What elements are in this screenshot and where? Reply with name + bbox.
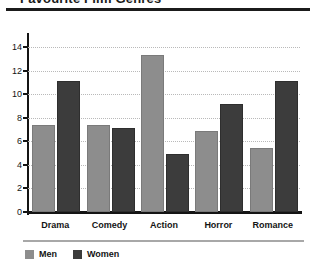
y-tick-label: 4 [17,160,22,170]
legend-label-men: Men [39,249,57,259]
y-tick-mark [23,187,28,189]
bar-group: Action [141,38,187,212]
x-axis-label-comedy: Comedy [87,220,133,230]
y-tick-label: 6 [17,136,22,146]
x-axis-label-romance: Romance [250,220,296,230]
bar-romance-men[interactable] [250,148,273,212]
legend-divider [23,240,304,242]
y-tick-mark [23,211,28,213]
page-title: Favourite Film Genres [20,0,161,6]
title-divider [6,8,310,11]
chart-legend: MenWomen [25,249,119,259]
bar-comedy-men[interactable] [87,125,110,212]
legend-item-men[interactable]: Men [25,249,57,259]
bar-action-women[interactable] [166,154,189,212]
y-tick-label: 2 [17,183,22,193]
legend-item-women[interactable]: Women [73,249,119,259]
bar-drama-women[interactable] [57,81,80,212]
y-tick-mark [23,164,28,166]
y-tick-label: 8 [17,113,22,123]
y-tick-mark [23,117,28,119]
bar-horror-men[interactable] [195,131,218,212]
plot-area: 02468101214 DramaComedyActionHorrorRoman… [28,38,300,212]
y-tick-mark [23,46,28,48]
bar-horror-women[interactable] [220,104,243,212]
x-axis-label-action: Action [141,220,187,230]
legend-swatch-men [25,250,34,259]
bar-group: Horror [195,38,241,212]
y-tick-label: 0 [17,207,22,217]
bar-romance-women[interactable] [275,81,298,212]
legend-swatch-women [73,250,82,259]
y-tick-label: 14 [12,42,22,52]
bar-group: Romance [250,38,296,212]
x-axis-label-drama: Drama [32,220,78,230]
bar-group: Comedy [87,38,133,212]
chart-page: Favourite Film Genres 02468101214 DramaC… [0,0,316,266]
y-tick-label: 12 [12,66,22,76]
bar-group: Drama [32,38,78,212]
y-tick-mark [23,70,28,72]
y-tick-mark [23,140,28,142]
bar-drama-men[interactable] [32,125,55,212]
y-tick-label: 10 [12,89,22,99]
chart-title-strip: Favourite Film Genres [0,0,316,7]
y-tick-mark [23,93,28,95]
legend-label-women: Women [87,249,119,259]
bar-chart: 02468101214 DramaComedyActionHorrorRoman… [0,18,316,218]
x-axis-label-horror: Horror [195,220,241,230]
bar-action-men[interactable] [141,55,164,212]
bar-comedy-women[interactable] [112,128,135,212]
